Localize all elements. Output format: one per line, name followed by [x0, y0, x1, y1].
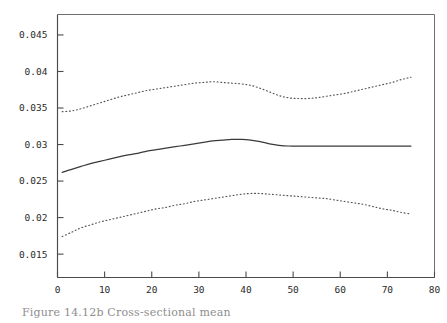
y-tick-label: 0.025	[19, 175, 48, 186]
x-tick-label: 70	[382, 284, 394, 295]
chart-canvas: 0.0150.020.0250.030.0350.040.045 0102030…	[0, 0, 447, 323]
y-tick-label: 0.04	[25, 66, 48, 77]
y-tick-label: 0.03	[25, 139, 48, 150]
y-tick-label: 0.02	[25, 212, 48, 223]
x-tick-label: 50	[287, 284, 299, 295]
y-tick-label: 0.035	[19, 102, 48, 113]
x-tick-label: 20	[146, 284, 158, 295]
x-tick-label: 60	[335, 284, 347, 295]
figure-container: 0.0150.020.0250.030.0350.040.045 0102030…	[0, 0, 447, 323]
x-tick-label: 10	[99, 284, 111, 295]
figure-caption: Figure 14.12b Cross-sectional mean	[0, 306, 447, 323]
x-tick-label: 0	[55, 284, 61, 295]
canvas-background	[0, 0, 447, 323]
x-tick-label: 40	[240, 284, 252, 295]
x-tick-label: 30	[193, 284, 205, 295]
y-tick-label: 0.015	[19, 249, 48, 260]
y-tick-label: 0.045	[19, 29, 48, 40]
x-tick-label: 80	[429, 284, 441, 295]
